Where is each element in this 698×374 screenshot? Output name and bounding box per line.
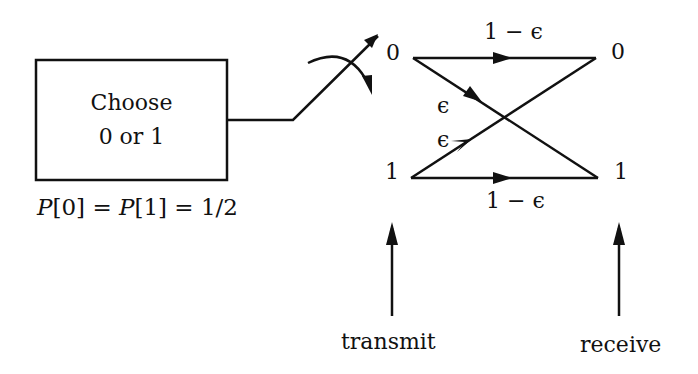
transmit-arrowhead — [386, 222, 398, 245]
prior-p0-arg: [0] — [52, 194, 85, 220]
transmit-label: transmit — [341, 331, 436, 353]
source-box-label: Choose 0 or 1 — [36, 60, 227, 180]
edge-top-label: 1 − ϵ — [484, 21, 543, 43]
transmit-node-0: 0 — [386, 42, 400, 64]
receive-node-0: 0 — [611, 41, 625, 63]
edge-1-1-arrowhead — [493, 172, 512, 184]
receive-node-1: 1 — [614, 161, 628, 183]
source-box-line2: 0 or 1 — [99, 120, 165, 154]
source-box-line1: Choose — [91, 86, 173, 120]
switch-curve-arrowhead — [362, 75, 372, 95]
edge-0-0-arrowhead — [493, 52, 512, 64]
diagram-canvas — [0, 0, 698, 374]
switch-wire — [227, 36, 378, 120]
prior-p1-arg: [1] — [134, 194, 167, 220]
prior-p1-symbol: P — [119, 194, 134, 220]
switch-arrow-head-up — [364, 34, 378, 48]
switch-curve-icon — [308, 57, 365, 78]
prior-eq1: = — [85, 194, 119, 220]
prior-probability-label: P[0] = P[1] = 1/2 — [37, 196, 238, 219]
receive-label: receive — [580, 334, 661, 356]
transmit-node-1: 1 — [385, 161, 399, 183]
edge-bottom-label: 1 − ϵ — [486, 190, 545, 212]
receive-arrowhead — [613, 222, 625, 245]
edge-cross-down-label: ϵ — [437, 95, 449, 117]
prior-eq2: = 1/2 — [167, 194, 238, 220]
edge-cross-up-label: ϵ — [437, 129, 449, 151]
prior-p0-symbol: P — [37, 194, 52, 220]
edge-0-1-arrowhead — [463, 86, 482, 102]
